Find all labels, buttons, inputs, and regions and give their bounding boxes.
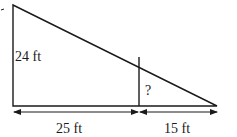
base-right-label: 15 ft [164,121,190,136]
base-left-label: 25 ft [56,121,82,136]
unknown-label: ? [145,83,151,98]
large-triangle [13,5,217,106]
height-label: 24 ft [15,49,41,64]
triangle-diagram: 24 ft ? 25 ft 15 ft [0,0,237,137]
stray-mark [1,9,4,10]
